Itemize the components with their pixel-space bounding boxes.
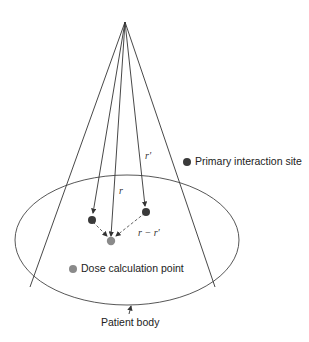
beam-edge-left <box>30 22 125 287</box>
patient-body-pointer <box>129 306 131 314</box>
patient-body-label: Patient body <box>101 316 159 328</box>
vector-r-prime-label: r′ <box>145 150 151 161</box>
patient-body-ellipse <box>15 175 239 305</box>
primary-site-label: Primary interaction site <box>195 155 302 167</box>
dose-point-label: Dose calculation point <box>81 262 184 274</box>
primary-site-legend-dot <box>183 158 191 166</box>
legend-dose-point: Dose calculation point <box>69 262 184 274</box>
primary-ray-right <box>125 22 145 206</box>
scatter-vector-left <box>93 222 107 236</box>
dose-point-legend-dot <box>69 265 77 273</box>
vector-difference-label: r − r′ <box>138 227 160 238</box>
vector-r-label: r <box>119 185 123 196</box>
dose-point-dot <box>107 237 115 245</box>
primary-site-dot-right <box>142 208 150 216</box>
legend-primary-site: Primary interaction site <box>183 155 302 167</box>
primary-site-dot-left <box>88 216 96 224</box>
dose-kernel-diagram <box>0 0 309 342</box>
